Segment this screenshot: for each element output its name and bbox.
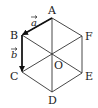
center-label-o: O	[54, 59, 63, 72]
vertex-label-e: E	[85, 70, 93, 83]
vertex-label-a: A	[47, 4, 57, 17]
vertex-label-c: C	[10, 70, 18, 83]
vector-a	[23, 18, 52, 35]
hexagon-diagram: ABCDEFOab	[0, 0, 98, 108]
vector-label-b: b	[11, 49, 17, 60]
vector-label-a: a	[31, 17, 37, 28]
vertex-label-b: B	[10, 29, 18, 42]
vertex-label-d: D	[48, 94, 57, 107]
vertex-label-f: F	[85, 30, 93, 43]
